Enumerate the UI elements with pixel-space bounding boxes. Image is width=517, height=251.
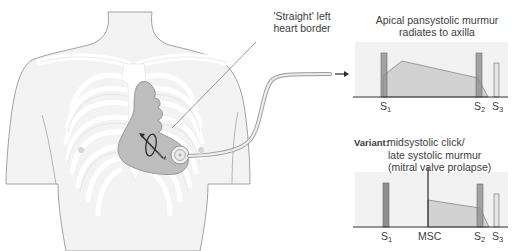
bottom-label-msc: MSC <box>418 230 441 242</box>
bottom-panel-title: Variant:midsystolic click/ late systolic… <box>354 136 491 173</box>
top-title-line2: radiates to axilla <box>372 26 502 38</box>
top-s3-bar <box>494 63 499 97</box>
bottom-s1-bar <box>383 183 389 227</box>
top-s2-bar <box>476 53 482 97</box>
bottom-title-line2: late systolic murmur <box>388 149 491 161</box>
top-phonocardiogram <box>353 42 508 97</box>
variant-label: Variant: <box>354 137 387 149</box>
bottom-s3-bar <box>494 194 499 227</box>
top-label-s3: S3 <box>492 100 503 114</box>
top-s1-bar <box>381 53 387 97</box>
bottom-label-s1: S1 <box>381 230 392 244</box>
right-nipple <box>198 147 204 153</box>
heart-border-label-line1: 'Straight' left <box>262 10 342 22</box>
bottom-label-s3: S3 <box>492 230 503 244</box>
heart-border-label: 'Straight' left heart border <box>262 10 342 34</box>
top-title-line1: Apical pansystolic murmur <box>372 14 502 26</box>
top-label-s2: S2 <box>474 100 485 114</box>
bottom-s2-bar <box>477 184 483 227</box>
bottom-title-line1: midsystolic click/ <box>387 136 465 148</box>
heart-border-label-line2: heart border <box>262 22 342 34</box>
bottom-title-line3: (mitral valve prolapse) <box>388 161 491 173</box>
stethoscope-chestpiece-icon <box>171 146 189 164</box>
top-panel-title: Apical pansystolic murmur radiates to ax… <box>372 14 502 38</box>
left-nipple <box>78 147 84 153</box>
top-label-s1: S1 <box>380 100 391 114</box>
bottom-phonocardiogram <box>353 167 508 227</box>
arrow-right-icon <box>335 71 349 77</box>
bottom-label-s2: S2 <box>474 230 485 244</box>
